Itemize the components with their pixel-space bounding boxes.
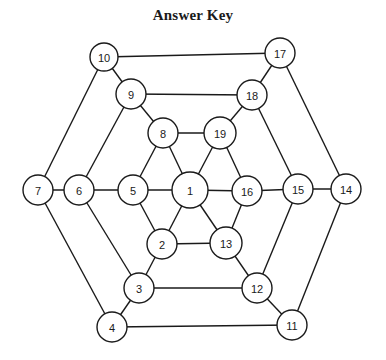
node-13: 13 bbox=[210, 227, 242, 259]
edge-10-17 bbox=[104, 53, 280, 57]
node-label: 7 bbox=[35, 185, 41, 197]
node-4: 4 bbox=[97, 312, 127, 342]
edge-11-4 bbox=[112, 325, 292, 327]
hexagon-graph-diagram: 12345678910111213141516171819 bbox=[0, 0, 386, 360]
node-10: 10 bbox=[90, 43, 118, 71]
node-5: 5 bbox=[118, 175, 148, 205]
node-8: 8 bbox=[148, 118, 178, 148]
node-label: 9 bbox=[128, 89, 134, 101]
node-label: 18 bbox=[246, 90, 258, 102]
node-7: 7 bbox=[23, 175, 53, 205]
node-label: 17 bbox=[274, 48, 286, 60]
node-label: 12 bbox=[251, 283, 263, 295]
node-9: 9 bbox=[116, 79, 146, 109]
edge-17-14 bbox=[280, 53, 346, 189]
node-18: 18 bbox=[237, 80, 267, 110]
node-label: 19 bbox=[214, 128, 226, 140]
node-label: 5 bbox=[130, 185, 136, 197]
node-label: 11 bbox=[286, 320, 297, 332]
node-label: 1 bbox=[187, 185, 193, 197]
node-6: 6 bbox=[64, 175, 94, 205]
node-label: 14 bbox=[340, 184, 352, 196]
node-label: 3 bbox=[136, 283, 142, 295]
node-14: 14 bbox=[331, 174, 361, 204]
node-label: 16 bbox=[241, 186, 253, 198]
node-15: 15 bbox=[283, 174, 313, 204]
node-11: 11 bbox=[277, 310, 307, 340]
edge-4-7 bbox=[38, 190, 112, 327]
node-12: 12 bbox=[242, 273, 272, 303]
node-label: 13 bbox=[220, 238, 232, 250]
node-2: 2 bbox=[147, 229, 177, 259]
node-19: 19 bbox=[204, 117, 236, 149]
edge-6-9 bbox=[79, 94, 131, 190]
node-label: 8 bbox=[160, 128, 166, 140]
edge-9-18 bbox=[131, 94, 252, 95]
node-label: 2 bbox=[159, 239, 165, 251]
node-label: 15 bbox=[292, 184, 304, 196]
node-1: 1 bbox=[172, 172, 208, 208]
nodes-layer: 12345678910111213141516171819 bbox=[23, 38, 361, 342]
node-3: 3 bbox=[124, 273, 154, 303]
edge-14-11 bbox=[292, 189, 346, 325]
edge-7-10 bbox=[38, 57, 104, 190]
node-label: 10 bbox=[98, 52, 110, 64]
node-16: 16 bbox=[232, 176, 262, 206]
node-label: 6 bbox=[76, 185, 82, 197]
edge-15-12 bbox=[257, 189, 298, 288]
node-17: 17 bbox=[265, 38, 295, 68]
node-label: 4 bbox=[109, 322, 115, 334]
